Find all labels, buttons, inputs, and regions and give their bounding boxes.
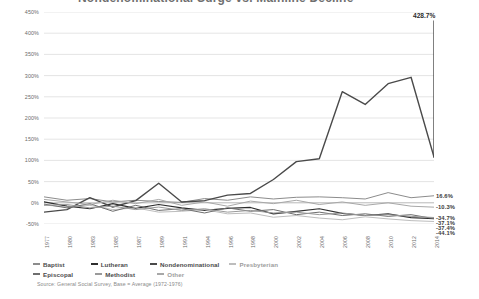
x-axis-tick-label: 2012 <box>411 236 417 248</box>
legend-label: Episcopal <box>43 271 73 278</box>
legend-item-nondenominational[interactable]: Nondenominational <box>150 261 219 268</box>
legend-swatch-icon <box>91 263 98 264</box>
legend-row-primary: BaptistLutheranNondenominationalPresbyte… <box>33 259 453 269</box>
x-axis-tick-label: 2006 <box>342 236 348 248</box>
legend-item-episcopal[interactable]: Episcopal <box>33 271 73 278</box>
legend-label: Other <box>167 271 184 278</box>
x-axis-tick-label: 1996 <box>228 236 234 248</box>
legend-item-presbyterian[interactable]: Presbyterian <box>229 261 278 268</box>
y-axis-tick-label: -50% <box>26 221 39 227</box>
legend-label: Presbyterian <box>239 261 278 268</box>
legend-item-methodist[interactable]: Methodist <box>95 271 135 278</box>
legend-item-lutheran[interactable]: Lutheran <box>91 261 128 268</box>
series-end-value-labels: 16.6%-10.3%-34.7%-37.1%-37.4%-44.1% <box>436 12 479 227</box>
legend-swatch-icon <box>157 273 164 274</box>
legend-item-baptist[interactable]: Baptist <box>33 261 65 268</box>
chart-title-strip: Nondenominational Surge vs. Mainline Dec… <box>0 0 479 7</box>
legend-label: Nondenominational <box>160 261 219 268</box>
x-axis-tick-label: 1991 <box>182 236 188 248</box>
legend-swatch-icon <box>33 263 40 264</box>
y-axis-tick-label: 150% <box>25 136 39 142</box>
legend-label: Methodist <box>105 271 135 278</box>
y-axis-tick-label: 250% <box>25 94 39 100</box>
x-axis-tick-label: 1985 <box>113 236 119 248</box>
legend-label: Lutheran <box>101 261 128 268</box>
chart-legend: BaptistLutheranNondenominationalPresbyte… <box>33 259 453 279</box>
x-axis-tick-label: 2004 <box>319 236 325 248</box>
series-end-value: -44.1% <box>436 230 455 236</box>
y-axis-tick-label: 300% <box>25 73 39 79</box>
x-axis-tick-label: 1998 <box>250 236 256 248</box>
y-axis-tick-label: 450% <box>25 9 39 15</box>
source-note: Source: General Social Survey, Base = Av… <box>37 281 183 287</box>
x-axis-tick-label: 1987 <box>136 236 142 248</box>
x-axis-tick-label: 1994 <box>205 236 211 248</box>
legend-row-secondary: EpiscopalMethodistOther <box>33 269 453 279</box>
x-axis-tick-label: 1980 <box>67 236 73 248</box>
x-axis-tick-label: 2014 <box>434 236 440 248</box>
x-axis-labels: 1977198019831985198719891991199419961998… <box>44 226 434 254</box>
legend-swatch-icon <box>95 273 102 274</box>
legend-swatch-icon <box>150 263 157 264</box>
plot-area <box>44 12 434 224</box>
x-axis-tick-label: 2008 <box>365 236 371 248</box>
x-axis-tick-label: 2000 <box>273 236 279 248</box>
legend-item-other[interactable]: Other <box>157 271 184 278</box>
series-end-value: -10.3% <box>436 204 455 210</box>
page-title: Nondenominational Surge vs. Mainline Dec… <box>78 0 354 5</box>
y-axis-tick-label: 0% <box>31 200 39 206</box>
series-end-value: 16.6% <box>436 193 453 199</box>
x-axis-tick-label: 1989 <box>159 236 165 248</box>
series-line-nondenominational <box>44 77 434 212</box>
y-axis-tick-label: 350% <box>25 51 39 57</box>
y-axis-tick-label: 400% <box>25 30 39 36</box>
y-axis-tick-label: 100% <box>25 157 39 163</box>
peak-value-callout: 428.7% <box>413 12 435 19</box>
legend-swatch-icon <box>229 263 236 264</box>
x-axis-tick-label: 2002 <box>296 236 302 248</box>
x-axis-tick-label: 2010 <box>388 236 394 248</box>
x-axis-tick-label: 1983 <box>90 236 96 248</box>
line-chart-svg <box>44 12 434 224</box>
x-axis-tick-label: 1977 <box>44 236 50 248</box>
y-axis-tick-label: 200% <box>25 115 39 121</box>
legend-label: Baptist <box>43 261 65 268</box>
chart-container: Nondenominational Surge vs. Mainline Dec… <box>0 0 479 299</box>
y-axis-tick-label: 50% <box>28 179 39 185</box>
legend-swatch-icon <box>33 273 40 274</box>
y-axis-labels: 450%400%350%300%250%200%150%100%50%0%-50… <box>0 12 42 224</box>
